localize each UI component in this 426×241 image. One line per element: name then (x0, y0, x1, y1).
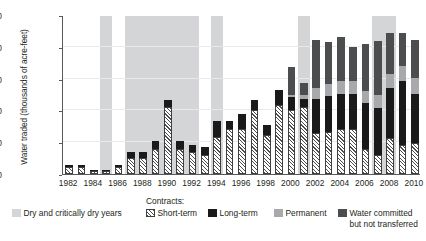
bar-segment-long-term (349, 94, 357, 130)
legend-long-term[interactable]: Long-term (208, 208, 258, 219)
bar-segment-short-term (362, 149, 370, 174)
x-tick-label: 2002 (306, 178, 325, 188)
chart-legend: Contracts: Dry and critically dry yearsS… (0, 196, 426, 241)
bar-segment-short-term (349, 129, 357, 174)
bar-segment-long-term (201, 147, 209, 155)
legend-water-committed[interactable]: Water committedbut not transferred (338, 208, 418, 229)
bar-segment-permanent (325, 84, 333, 97)
bar-segment-long-term (164, 100, 172, 107)
bar-column (127, 152, 135, 174)
bar-column (164, 100, 172, 174)
bar-segment-long-term (115, 165, 123, 167)
bar-segment-permanent (362, 91, 370, 104)
bar-segment-short-term (226, 129, 234, 174)
bar-segment-long-term (78, 165, 86, 167)
plot-area (62, 16, 420, 175)
bar-column (325, 42, 333, 174)
bar-segment-short-term (325, 132, 333, 174)
bar-column (238, 114, 246, 174)
x-tick-label: 2008 (380, 178, 399, 188)
legend-dry-years[interactable]: Dry and critically dry years (12, 208, 122, 219)
bar-column (226, 121, 234, 174)
bar-segment-long-term (288, 97, 296, 110)
bar-segment-permanent (349, 81, 357, 94)
x-tick-label: 2000 (281, 178, 300, 188)
bar-segment-long-term (152, 141, 160, 149)
bar-segment-water-committed (288, 67, 296, 96)
bar-column (374, 41, 382, 174)
legend-dry-years-label: Dry and critically dry years (24, 208, 122, 219)
legend-dry-years-swatch-icon (12, 209, 21, 218)
bar-segment-long-term (312, 99, 320, 133)
legend-long-term-swatch-icon (208, 209, 217, 218)
bar-segment-short-term (300, 107, 308, 174)
bar-segment-short-term (337, 129, 345, 174)
dry-year-band (125, 16, 199, 174)
bar-segment-long-term (263, 125, 271, 135)
bar-column (176, 141, 184, 174)
y-tick-label: 1,000 (0, 106, 2, 116)
legend-permanent-swatch-icon (274, 209, 283, 218)
bar-segment-long-term (399, 81, 407, 145)
bar-segment-long-term (374, 108, 382, 155)
bar-segment-short-term (411, 143, 419, 174)
y-tick-label: 1,500 (0, 75, 2, 85)
bar-segment-permanent (300, 95, 308, 99)
bar-segment-short-term (127, 158, 135, 174)
bar-segment-long-term (300, 99, 308, 107)
bar-segment-short-term (102, 171, 110, 174)
bar-segment-long-term (102, 170, 110, 171)
bar-segment-long-term (337, 94, 345, 130)
bar-segment-long-term (362, 103, 370, 149)
bar-segment-permanent (337, 81, 345, 94)
bar-column (386, 33, 394, 174)
bar-column (201, 147, 209, 174)
bar-column (90, 171, 98, 174)
x-tick-label: 1998 (256, 178, 275, 188)
bar-segment-long-term (325, 96, 333, 132)
bar-segment-short-term (312, 133, 320, 174)
bar-column (115, 165, 123, 174)
x-tick-label: 1992 (182, 178, 201, 188)
bar-segment-short-term (164, 107, 172, 174)
legend-permanent[interactable]: Permanent (274, 208, 326, 219)
x-tick-label: 1996 (232, 178, 251, 188)
bar-segment-short-term (115, 167, 123, 174)
legend-short-term[interactable]: Short-term (146, 208, 197, 219)
bar-segment-short-term (386, 138, 394, 174)
bar-segment-short-term (251, 110, 259, 174)
bar-segment-short-term (288, 110, 296, 174)
bar-segment-long-term (176, 141, 184, 149)
bar-column (251, 100, 259, 174)
x-tick-label: 2010 (404, 178, 423, 188)
bar-segment-short-term (201, 155, 209, 174)
bar-column (300, 83, 308, 174)
bar-segment-short-term (139, 158, 147, 174)
bar-segment-long-term (213, 121, 221, 137)
bar-segment-long-term (386, 88, 394, 139)
bar-segment-water-committed (386, 33, 394, 74)
bar-column (65, 165, 73, 174)
y-tick-label: 0 (0, 170, 2, 180)
y-tick-mark (59, 175, 63, 176)
x-tick-label: 1982 (59, 178, 78, 188)
bar-segment-water-committed (300, 83, 308, 95)
bar-segment-short-term (399, 145, 407, 174)
bar-segment-water-committed (312, 40, 320, 88)
bar-segment-long-term (251, 100, 259, 110)
bar-segment-short-term (213, 137, 221, 174)
x-tick-label: 2004 (330, 178, 349, 188)
bar-column (78, 165, 86, 174)
bar-segment-short-term (275, 105, 283, 174)
bar-column (288, 67, 296, 174)
bar-column (102, 171, 110, 174)
y-axis-title: Water traded (thousands of acre-feet) (19, 7, 29, 187)
x-tick-label: 1988 (133, 178, 152, 188)
bar-segment-long-term (275, 90, 283, 105)
bar-segment-long-term (127, 152, 135, 158)
bar-segment-short-term (78, 167, 86, 174)
bar-segment-permanent (288, 95, 296, 97)
bar-segment-water-committed (374, 41, 382, 95)
y-tick-label: 2,500 (0, 11, 2, 21)
bar-segment-water-committed (349, 47, 357, 81)
